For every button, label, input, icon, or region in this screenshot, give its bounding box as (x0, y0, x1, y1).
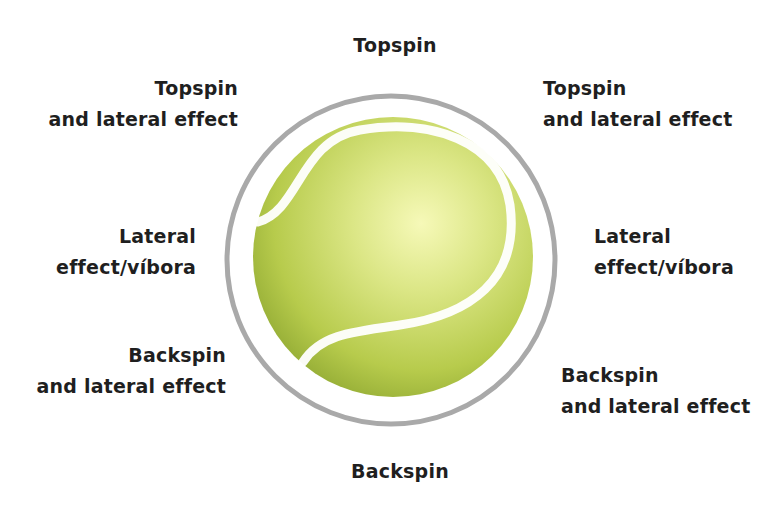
label-line: effect/víbora (20, 252, 196, 283)
label-lateral-left: Lateral effect/víbora (20, 221, 196, 283)
label-line: Topspin (20, 73, 238, 104)
label-line: and lateral effect (20, 104, 238, 135)
label-backspin: Backspin (330, 456, 470, 487)
label-line: Lateral (594, 221, 774, 252)
label-line: Topspin (543, 73, 773, 104)
label-line: Backspin (561, 360, 781, 391)
label-lateral-right: Lateral effect/víbora (594, 221, 774, 283)
tennis-ball-icon (253, 117, 533, 397)
label-topspin-lateral-left: Topspin and lateral effect (20, 73, 238, 135)
label-line: effect/víbora (594, 252, 774, 283)
label-line: and lateral effect (10, 371, 226, 402)
label-topspin: Topspin (330, 30, 460, 61)
label-line: and lateral effect (561, 391, 781, 422)
label-line: and lateral effect (543, 104, 773, 135)
label-topspin-lateral-right: Topspin and lateral effect (543, 73, 773, 135)
label-line: Backspin (330, 456, 470, 487)
label-backspin-lateral-right: Backspin and lateral effect (561, 360, 781, 422)
label-line: Lateral (20, 221, 196, 252)
label-line: Topspin (330, 30, 460, 61)
label-backspin-lateral-left: Backspin and lateral effect (10, 340, 226, 402)
label-line: Backspin (10, 340, 226, 371)
